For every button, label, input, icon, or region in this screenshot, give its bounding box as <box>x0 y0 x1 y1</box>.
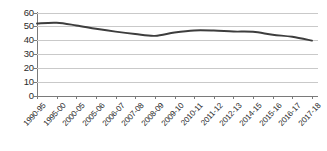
x-axis-tick <box>37 96 38 99</box>
x-axis-tick <box>194 96 195 99</box>
x-axis-tick <box>175 96 176 99</box>
x-axis-tick <box>312 96 313 99</box>
x-axis-tick <box>292 96 293 99</box>
line-chart: 60 50 40 30 20 10 0 1990-951995-002000-0… <box>0 0 327 151</box>
x-axis-tick <box>57 96 58 99</box>
series-line-1 <box>37 23 312 41</box>
x-axis-tick <box>155 96 156 99</box>
x-axis-tick <box>76 96 77 99</box>
series-layer <box>0 0 327 151</box>
x-axis-tick <box>214 96 215 99</box>
x-axis-tick <box>135 96 136 99</box>
x-axis-tick <box>96 96 97 99</box>
x-axis-tick <box>273 96 274 99</box>
x-axis-tick <box>253 96 254 99</box>
x-axis-tick <box>233 96 234 99</box>
x-axis-tick <box>116 96 117 99</box>
